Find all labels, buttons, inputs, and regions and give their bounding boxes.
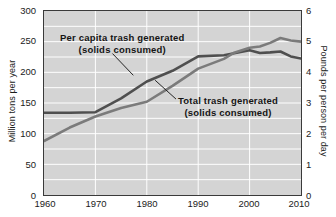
y-tick-right-2: 2 xyxy=(306,129,311,139)
y-tick-left-50: 50 xyxy=(25,160,36,170)
y-tick-left-150: 150 xyxy=(20,98,36,108)
x-tick-2010: 2010 xyxy=(288,198,309,209)
y-tick-right-4: 4 xyxy=(306,67,311,77)
leader-line-total xyxy=(155,80,176,99)
y-tick-right-1: 1 xyxy=(306,160,311,170)
x-axis-ticks: 1960 1970 1980 1990 2000 2010 xyxy=(0,198,336,214)
annotation-total-line2: (solids consumed) xyxy=(178,107,278,119)
y-axis-left-ticks: 300 250 200 150 100 50 0 xyxy=(8,0,38,217)
annotation-leader-lines xyxy=(112,54,176,100)
y-tick-right-5: 5 xyxy=(306,36,311,46)
y-axis-right-ticks: 6 5 4 3 2 1 0 xyxy=(302,0,332,217)
x-tick-1970: 1970 xyxy=(85,198,106,209)
y-tick-left-250: 250 xyxy=(20,36,36,46)
y-tick-right-6: 6 xyxy=(306,6,311,16)
x-tick-2000: 2000 xyxy=(238,198,259,209)
annotation-per-capita-line2: (solids consumed) xyxy=(60,44,185,56)
x-tick-1980: 1980 xyxy=(136,198,157,209)
y-tick-left-200: 200 xyxy=(20,67,36,77)
x-tick-1990: 1990 xyxy=(187,198,208,209)
y-tick-left-100: 100 xyxy=(20,129,36,139)
annotation-per-capita-line1: Per capita trash generated xyxy=(60,32,185,43)
annotation-per-capita: Per capita trash generated (solids consu… xyxy=(60,32,185,55)
y-tick-right-3: 3 xyxy=(306,98,311,108)
x-tick-1960: 1960 xyxy=(34,198,55,209)
annotation-total: Total trash generated (solids consumed) xyxy=(178,95,278,118)
trash-generation-chart: Million tons per year Pounds per person … xyxy=(0,0,336,217)
annotation-total-line1: Total trash generated xyxy=(178,95,278,106)
y-tick-left-300: 300 xyxy=(20,6,36,16)
